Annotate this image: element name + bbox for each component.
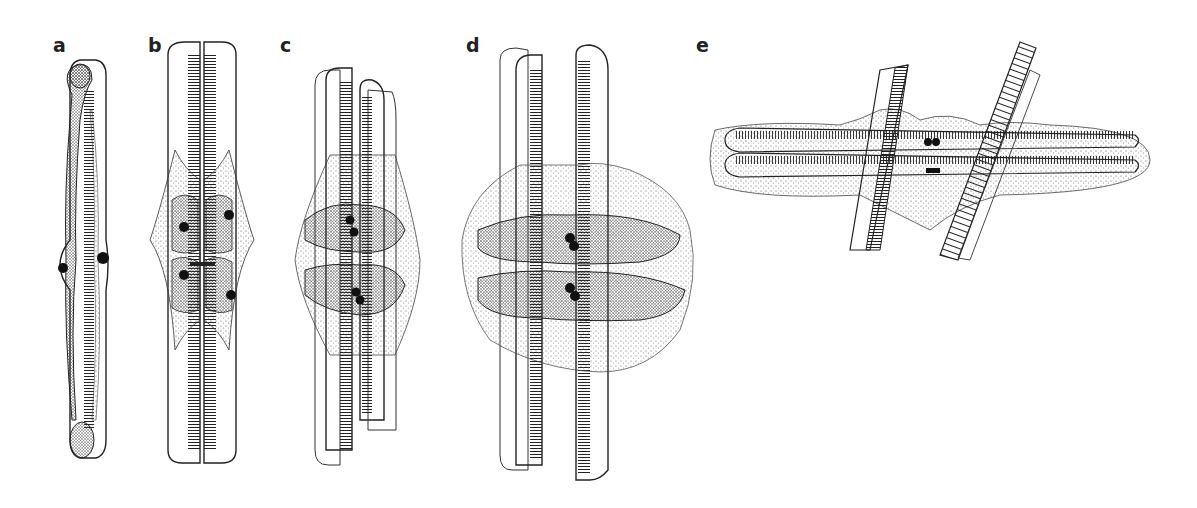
panel-a-drawing <box>58 60 109 458</box>
panel-c-drawing <box>295 68 420 465</box>
panel-d-drawing <box>462 45 693 480</box>
panel-b-drawing <box>150 42 254 463</box>
panel-e-drawing <box>710 42 1150 260</box>
diatom-figure <box>0 0 1197 508</box>
